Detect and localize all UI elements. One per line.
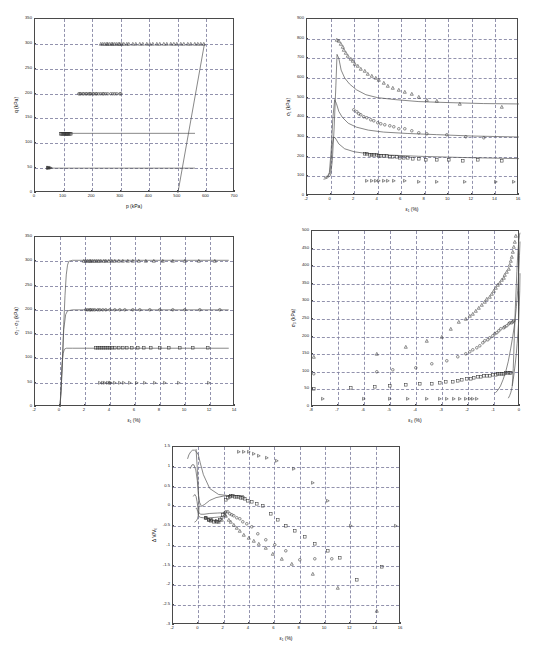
data-point-triangle-up: [271, 552, 275, 556]
y-tick-label: -2.5: [163, 602, 170, 606]
y-tick-mark: [172, 545, 174, 546]
x-tick-mark: [273, 622, 274, 624]
x-tick-mark: [375, 622, 376, 624]
data-point-triangle-up: [220, 518, 224, 522]
data-point-triangle-up: [264, 546, 268, 550]
y-tick-mark: [172, 624, 174, 625]
x-tick-mark: [349, 622, 350, 624]
data-point-triangle-up: [252, 539, 256, 543]
x-tick-label: 4: [247, 626, 249, 630]
data-point-triangle-up: [242, 533, 246, 537]
y-tick-label: 1: [168, 464, 170, 468]
data-point-triangle-up: [311, 572, 315, 576]
x-tick-mark: [197, 622, 198, 624]
y-tick-label: 0: [168, 503, 170, 507]
x-tick-label: 16: [398, 626, 403, 630]
y-axis-label-panel-e: Δ V/V₀: [152, 528, 157, 543]
x-tick-label: 12: [347, 626, 352, 630]
x-tick-label: 14: [372, 626, 377, 630]
x-tick-label: 6: [272, 626, 274, 630]
x-tick-label: 2: [221, 626, 223, 630]
x-tick-mark: [400, 622, 401, 624]
x-tick-label: 8: [297, 626, 299, 630]
plot-area-panel-e: [172, 446, 400, 624]
y-tick-mark: [172, 525, 174, 526]
data-point-triangle-up: [257, 542, 261, 546]
x-axis-label-panel-e: ε₁ (%): [279, 636, 292, 641]
x-tick-label: -2: [170, 626, 174, 630]
data-point-triangle-up: [247, 536, 251, 540]
y-tick-label: 0.5: [164, 483, 170, 487]
data-point-triangle-up: [375, 609, 379, 613]
data-point-triangle-up: [290, 562, 294, 566]
y-tick-label: -1: [166, 543, 170, 547]
y-tick-label: -3: [166, 622, 170, 626]
y-tick-label: -2: [166, 582, 170, 586]
series-series-300kPa: [173, 447, 401, 625]
y-tick-label: 1.5: [164, 444, 170, 448]
x-tick-mark: [324, 622, 325, 624]
plot-panel-e: -20246810121416-3-2.5-2-1.5-1-0.500.511.…: [0, 0, 534, 656]
x-tick-mark: [299, 622, 300, 624]
y-tick-mark: [172, 584, 174, 585]
y-tick-mark: [172, 466, 174, 467]
x-tick-label: 10: [322, 626, 327, 630]
y-tick-mark: [172, 505, 174, 506]
y-tick-mark: [172, 486, 174, 487]
y-tick-label: -0.5: [163, 523, 170, 527]
y-tick-mark: [172, 565, 174, 566]
y-tick-mark: [172, 604, 174, 605]
y-tick-mark: [172, 446, 174, 447]
data-point-triangle-up: [280, 557, 284, 561]
y-tick-label: -1.5: [163, 563, 170, 567]
data-point-triangle-up: [336, 586, 340, 590]
x-tick-mark: [248, 622, 249, 624]
figure-canvas: 0100200300400500600700050100150200250300…: [0, 0, 534, 656]
x-tick-label: 0: [196, 626, 198, 630]
x-tick-mark: [223, 622, 224, 624]
